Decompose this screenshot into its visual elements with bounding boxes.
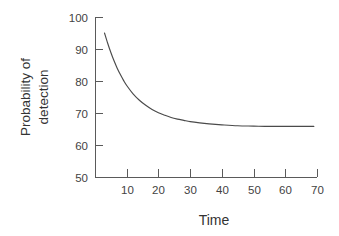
x-tick-label-20: 20 [152, 184, 165, 196]
x-tick-label-70: 70 [311, 184, 324, 196]
y-tick-label-100: 100 [69, 12, 88, 24]
detection-probability-curve [105, 33, 314, 126]
y-axis-title-line-2: detection [36, 70, 51, 125]
axes-group [96, 17, 318, 178]
y-axis-tick-labels: 5060708090100 [69, 12, 88, 184]
y-tick-label-70: 70 [75, 108, 88, 120]
data-series-group [105, 33, 314, 126]
x-axis-tick-labels: 10203040506070 [121, 184, 324, 196]
x-tick-label-10: 10 [121, 184, 134, 196]
x-axis-ticks [128, 169, 318, 177]
y-axis-ticks [95, 18, 103, 178]
y-tick-label-60: 60 [75, 140, 88, 152]
y-axis-line [96, 17, 318, 178]
probability-of-detection-line-chart: 5060708090100 10203040506070 Time Probab… [0, 0, 339, 236]
y-tick-label-80: 80 [75, 76, 88, 88]
x-tick-label-60: 60 [279, 184, 292, 196]
chart-container: 5060708090100 10203040506070 Time Probab… [0, 0, 339, 236]
x-tick-label-50: 50 [248, 184, 261, 196]
y-tick-label-50: 50 [75, 172, 88, 184]
x-axis-title: Time [199, 212, 230, 228]
y-axis-title-line-1: Probability of [18, 58, 33, 136]
y-tick-label-90: 90 [75, 44, 88, 56]
x-tick-label-30: 30 [184, 184, 197, 196]
axis-titles-group: Time Probability of detection [18, 58, 230, 228]
x-tick-label-40: 40 [216, 184, 229, 196]
